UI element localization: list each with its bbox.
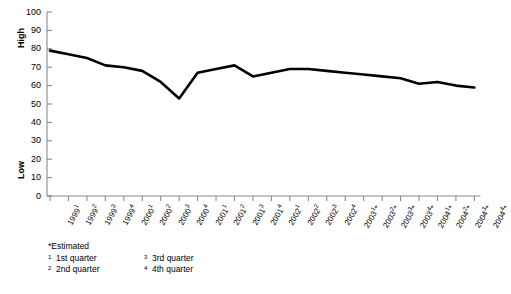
footnote-text: 3rd quarter bbox=[152, 253, 194, 264]
footnote-text: 2nd quarter bbox=[56, 264, 99, 275]
y-axis-ticks bbox=[47, 12, 52, 196]
footnote-text: 1st quarter bbox=[56, 253, 97, 264]
footnote-item: 33rd quarter bbox=[144, 253, 240, 264]
footnote-marker: 3 bbox=[144, 253, 152, 261]
data-series-line bbox=[50, 51, 474, 99]
x-axis-tick-label: 20044* bbox=[491, 204, 511, 230]
footnote-list: 11st quarter33rd quarter22nd quarter44th… bbox=[48, 253, 278, 275]
footnotes: *Estimated 11st quarter33rd quarter22nd … bbox=[48, 241, 278, 275]
x-axis-ticks bbox=[50, 196, 474, 201]
footnote-marker: 2 bbox=[48, 264, 56, 272]
footnote-item: 44th quarter bbox=[144, 264, 240, 275]
footnote-item: 22nd quarter bbox=[48, 264, 144, 275]
footnote-marker: 4 bbox=[144, 264, 152, 272]
footnote-item: 11st quarter bbox=[48, 253, 144, 264]
footnote-text: 4th quarter bbox=[152, 264, 193, 275]
footnote-marker: 1 bbox=[48, 253, 56, 261]
footnote-estimated: *Estimated bbox=[48, 241, 278, 252]
axis-lines bbox=[47, 12, 480, 196]
